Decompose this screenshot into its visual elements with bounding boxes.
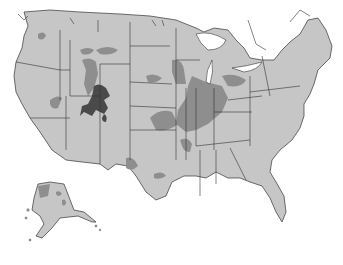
- us-map: [0, 0, 343, 265]
